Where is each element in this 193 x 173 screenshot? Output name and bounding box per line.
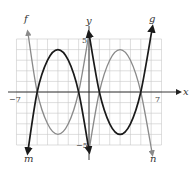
curve-label-g: g — [149, 13, 155, 24]
tick-label-x-min: −7 — [9, 95, 21, 104]
function-graph: x y −7 7 5 −5 f g m n — [0, 0, 193, 173]
curve-label-f: f — [23, 13, 30, 24]
tick-label-y-max: 5 — [82, 36, 87, 45]
tick-label-y-min: −5 — [76, 141, 88, 150]
y-axis-label: y — [85, 15, 92, 26]
curve-label-n: n — [150, 153, 156, 164]
x-axis-label: x — [183, 86, 189, 97]
curve-label-m: m — [24, 153, 33, 164]
x-axis-arrow-icon — [176, 89, 182, 95]
curve-n — [89, 50, 152, 154]
tick-label-x-max: 7 — [155, 95, 160, 104]
